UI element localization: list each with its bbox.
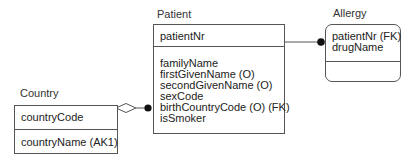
attribute-patientNr: patientNr xyxy=(160,31,284,42)
filled-dot-icon xyxy=(317,38,325,46)
country-entity[interactable]: countryCode countryName (AK1) xyxy=(14,105,118,154)
patient-allergy-relationship xyxy=(284,38,325,46)
filled-dot-icon xyxy=(144,104,151,111)
hollow-diamond-icon xyxy=(116,104,136,113)
allergy-entity-title: Allergy xyxy=(333,7,367,19)
allergy-entity[interactable]: patientNr (FK) drugName xyxy=(325,24,401,82)
patient-entity[interactable]: patientNr familyName firstGivenName (O) … xyxy=(153,24,285,134)
attribute-countryName: countryName (AK1) xyxy=(21,137,117,148)
patient-attribute-section: familyName firstGivenName (O) secondGive… xyxy=(154,58,284,124)
patient-entity-title: Patient xyxy=(157,8,191,20)
attribute-isSmoker: isSmoker xyxy=(160,113,284,124)
key-divider xyxy=(326,61,400,62)
attribute-drugName: drugName xyxy=(332,42,400,53)
allergy-key-section: patientNr (FK) drugName xyxy=(326,31,400,53)
attribute-countryCode: countryCode xyxy=(21,112,117,123)
patient-key-section: patientNr xyxy=(154,31,284,42)
key-divider xyxy=(154,46,284,47)
country-entity-title: Country xyxy=(20,87,59,99)
key-divider xyxy=(15,129,117,130)
country-attribute-section: countryName (AK1) xyxy=(15,137,117,148)
country-key-section: countryCode xyxy=(15,112,117,123)
country-patient-relationship xyxy=(116,104,152,113)
